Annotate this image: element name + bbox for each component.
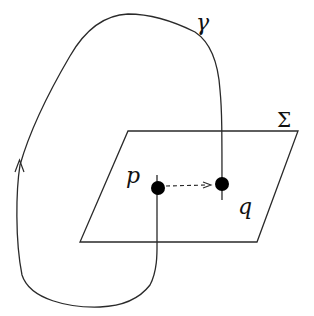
curve-gamma-right-branch <box>70 14 222 200</box>
label-sigma: Σ <box>277 110 291 130</box>
point-p <box>151 181 165 195</box>
dashed-arrow-p-to-q <box>166 185 208 186</box>
surface-sigma-parallelogram <box>80 131 298 242</box>
point-q <box>215 177 229 191</box>
label-q: q <box>238 196 252 218</box>
label-p: p <box>126 165 140 187</box>
diagram-canvas <box>0 0 314 316</box>
label-gamma: γ <box>196 12 209 34</box>
